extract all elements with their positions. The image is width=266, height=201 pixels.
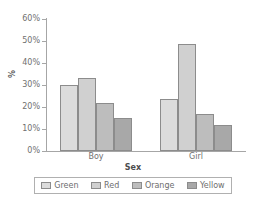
y-axis-tick-label: 30% <box>0 80 40 89</box>
y-axis-tick-label: 10% <box>0 124 40 133</box>
bar-chart: 0%10%20%30%40%50%60% % BoyGirl Sex Green… <box>0 0 266 201</box>
legend-label: Yellow <box>200 181 225 190</box>
bar-boy-red <box>78 78 96 151</box>
bar-girl-red <box>178 44 196 151</box>
legend-item-green[interactable]: Green <box>41 181 78 190</box>
legend-label: Orange <box>145 181 175 190</box>
y-axis-tick-label: 40% <box>0 58 40 67</box>
clipped-title-fragment <box>8 0 68 2</box>
legend-swatch-icon <box>41 182 51 189</box>
plot-area <box>46 19 246 151</box>
chart-legend: GreenRedOrangeYellow <box>34 177 232 194</box>
legend-label: Red <box>104 181 119 190</box>
y-axis-tick-label: 0% <box>0 146 40 155</box>
x-axis-label-boy: Boy <box>46 152 146 161</box>
bar-girl-orange <box>196 114 214 151</box>
legend-item-yellow[interactable]: Yellow <box>187 181 225 190</box>
y-axis-tick-label: 60% <box>0 14 40 23</box>
bar-boy-yellow <box>114 118 132 151</box>
y-axis-title: % <box>8 70 17 78</box>
x-axis-title: Sex <box>0 163 266 172</box>
legend-item-red[interactable]: Red <box>91 181 119 190</box>
bar-boy-orange <box>96 103 114 151</box>
legend-item-orange[interactable]: Orange <box>132 181 175 190</box>
legend-swatch-icon <box>187 182 197 189</box>
bar-girl-yellow <box>214 125 232 151</box>
legend-swatch-icon <box>132 182 142 189</box>
bar-boy-green <box>60 85 78 151</box>
y-axis-tick-label: 50% <box>0 36 40 45</box>
legend-swatch-icon <box>91 182 101 189</box>
bar-girl-green <box>160 99 178 151</box>
x-axis-label-girl: Girl <box>146 152 246 161</box>
legend-label: Green <box>54 181 78 190</box>
y-axis-tick-label: 20% <box>0 102 40 111</box>
